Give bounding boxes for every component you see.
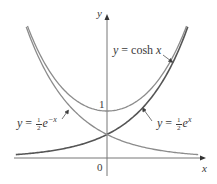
y-axis-arrow-icon bbox=[105, 14, 110, 20]
annotation-arrows bbox=[62, 55, 173, 121]
cosh-annotation: y = cosh x bbox=[113, 44, 161, 56]
cosh-eq: = cosh bbox=[118, 43, 156, 57]
cosh-var: x bbox=[156, 43, 161, 57]
origin-label: 0 bbox=[97, 162, 103, 173]
half-emx-fraction: 12 bbox=[36, 117, 42, 132]
half-ex-eq: = bbox=[162, 116, 175, 130]
frac-den: 2 bbox=[176, 125, 182, 132]
frac-den: 2 bbox=[36, 125, 42, 132]
half-emx-eq: = bbox=[22, 116, 35, 130]
half-emx-annotation: y = 12e−x bbox=[17, 116, 57, 132]
chart-canvas bbox=[0, 0, 217, 184]
half-exp-x-curve bbox=[16, 27, 188, 155]
half-emx-exp: −x bbox=[48, 115, 57, 124]
x-axis-label: x bbox=[202, 163, 207, 174]
half-ex-exp: x bbox=[188, 115, 192, 124]
half-ex-fraction: 12 bbox=[176, 117, 182, 132]
tick-label-one: 1 bbox=[99, 99, 105, 110]
half-ex-annotation: y = 12ex bbox=[157, 116, 192, 132]
y-axis-label: y bbox=[97, 8, 102, 19]
x-axis-arrow-icon bbox=[200, 156, 206, 161]
